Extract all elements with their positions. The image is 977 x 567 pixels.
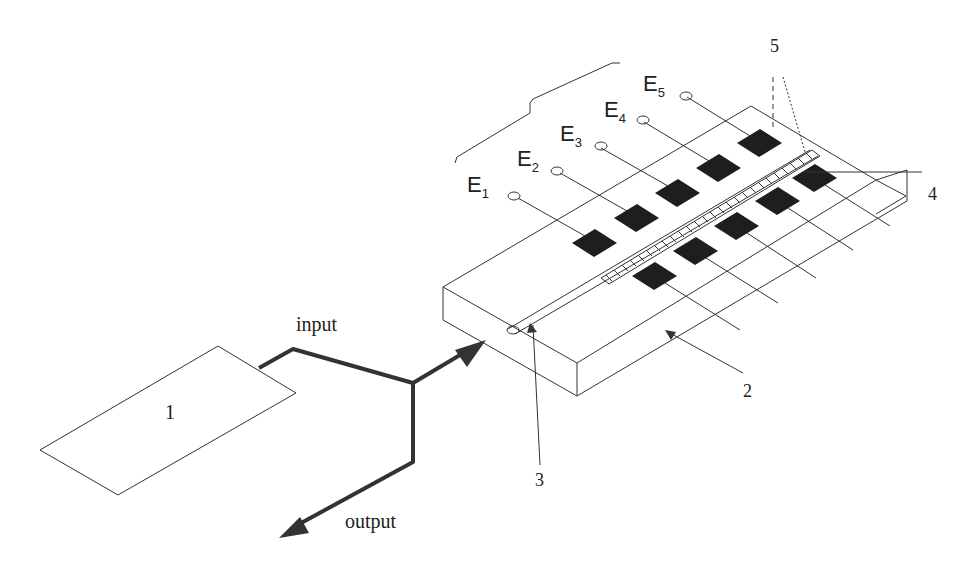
diagram-canvas: 1 input output xyxy=(0,0,977,567)
input-label: input xyxy=(296,313,338,336)
electrode-label-5: E5 xyxy=(643,71,665,100)
input-output-arrows xyxy=(259,340,486,538)
electrode-label-4: E4 xyxy=(604,97,626,126)
electrode-label-2: E2 xyxy=(517,146,539,175)
label-5: 5 xyxy=(770,36,779,56)
electrode-label-3: E3 xyxy=(560,121,582,150)
leader-lines xyxy=(527,77,922,465)
label-3: 3 xyxy=(535,470,544,490)
label-4: 4 xyxy=(928,184,937,204)
electrode-label-1: E1 xyxy=(467,172,489,201)
label-2: 2 xyxy=(743,381,752,401)
output-label: output xyxy=(345,510,397,533)
electrode-labels: E1 E2 E3 E4 E5 xyxy=(467,71,665,201)
device-1-label: 1 xyxy=(165,401,175,423)
